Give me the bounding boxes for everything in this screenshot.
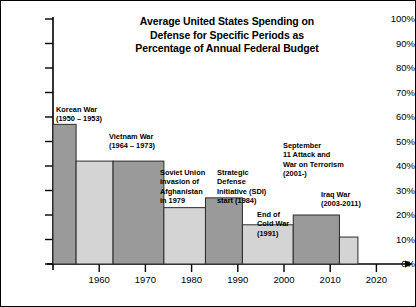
y-axis-tick-label: 70% <box>381 87 415 98</box>
x-axis-tick-label: 2020 <box>356 274 396 285</box>
y-axis-tick-label: 60% <box>381 111 415 122</box>
bar-light <box>164 208 206 264</box>
annotation-end-of-cold-war: End of Cold War (1991) <box>257 210 303 238</box>
annotation-september-11: September 11 Attack and War on Terrorism… <box>283 141 355 179</box>
annotation-korean-war: Korean War (1950 – 1953) <box>56 105 126 124</box>
y-axis-tick-label: 90% <box>381 38 415 49</box>
y-axis-tick-label: 100% <box>381 13 415 24</box>
bar-light <box>76 161 113 264</box>
bar-light <box>339 237 357 264</box>
annotation-soviet-afghanistan: Soviet Union invasion of Afghanistan in … <box>160 168 218 206</box>
x-axis-tick-label: 2000 <box>264 274 304 285</box>
x-axis-tick-label: 1960 <box>79 274 119 285</box>
x-axis-tick-label: 1970 <box>125 274 165 285</box>
y-axis-tick-label: 0% <box>381 258 415 269</box>
x-axis-tick-label: 1980 <box>172 274 212 285</box>
bar-dark <box>205 198 242 264</box>
chart-container: Average United States Spending on Defens… <box>0 0 416 307</box>
y-axis-tick-label: 50% <box>381 136 415 147</box>
y-axis-tick-label: 30% <box>381 185 415 196</box>
y-axis-tick-label: 40% <box>381 160 415 171</box>
y-axis-tick-label: 20% <box>381 209 415 220</box>
y-axis-tick-label: 80% <box>381 62 415 73</box>
bar-dark <box>53 124 76 264</box>
x-axis-tick-label: 2010 <box>310 274 350 285</box>
x-axis-tick-label: 1990 <box>218 274 258 285</box>
annotation-iraq-war: Iraq War (2003-2011) <box>321 190 383 209</box>
annotation-sdi-start: Strategic Defense Initiative (SDI) start… <box>217 168 275 206</box>
bar-dark <box>113 161 164 264</box>
annotation-vietnam-war: Vietnam War (1964 – 1973) <box>109 132 181 151</box>
y-axis-tick-label: 10% <box>381 234 415 245</box>
